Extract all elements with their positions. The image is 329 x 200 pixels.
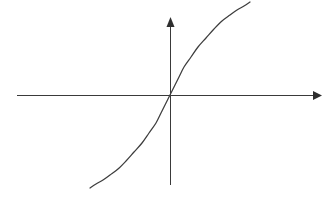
graph-figure [0,0,329,200]
vertical-axis [167,17,175,185]
horizontal-axis-arrow-icon [313,91,322,100]
vertical-axis-arrow-icon [167,17,175,27]
graph-canvas [0,0,329,200]
